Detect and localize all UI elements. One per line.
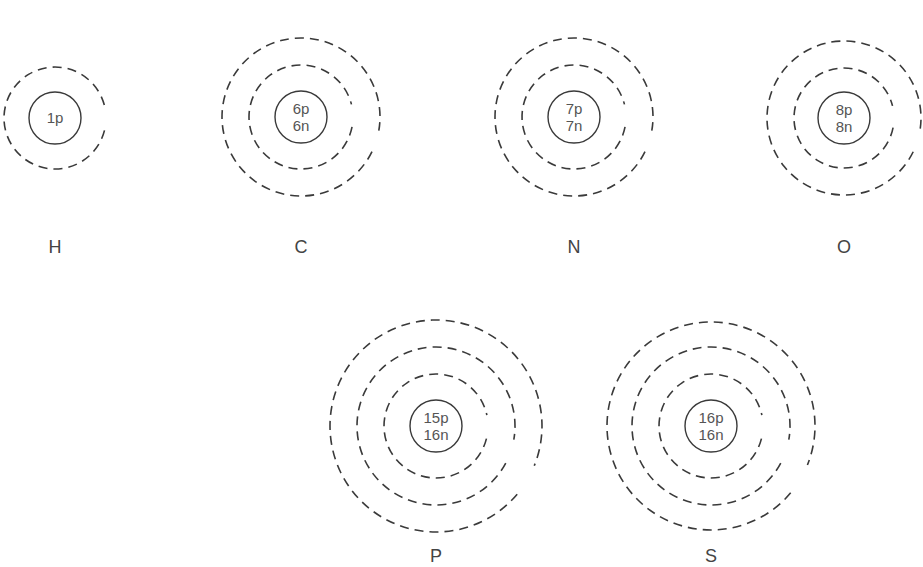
bohr-model-diagram: 1pH6p6nC7p7nN8p8nO15p16nP16p16nS xyxy=(0,0,923,567)
nucleus-text: 1p xyxy=(47,109,64,126)
element-label: C xyxy=(295,237,308,257)
nucleus-text: 7p xyxy=(566,100,583,117)
nucleus-text: 16n xyxy=(698,426,723,443)
nucleus-text: 8n xyxy=(836,118,853,135)
nucleus-text: 6p xyxy=(293,100,310,117)
atom-c: 6p6nC xyxy=(222,38,380,257)
element-label: H xyxy=(49,237,62,257)
atom-h: 1pH xyxy=(4,67,106,257)
nucleus-text: 16n xyxy=(423,426,448,443)
element-label: N xyxy=(568,237,581,257)
element-label: S xyxy=(705,546,717,566)
nucleus-text: 7n xyxy=(566,117,583,134)
element-label: P xyxy=(430,546,442,566)
nucleus-text: 6n xyxy=(293,117,310,134)
atom-s: 16p16nS xyxy=(607,322,815,566)
atom-o: 8p8nO xyxy=(767,41,921,257)
nucleus-text: 16p xyxy=(698,409,723,426)
atom-n: 7p7nN xyxy=(495,38,653,257)
nucleus-text: 8p xyxy=(836,101,853,118)
element-label: O xyxy=(837,237,851,257)
nucleus-text: 15p xyxy=(423,409,448,426)
atoms-layer: 1pH6p6nC7p7nN8p8nO15p16nP16p16nS xyxy=(4,38,921,566)
atom-p: 15p16nP xyxy=(330,320,542,566)
